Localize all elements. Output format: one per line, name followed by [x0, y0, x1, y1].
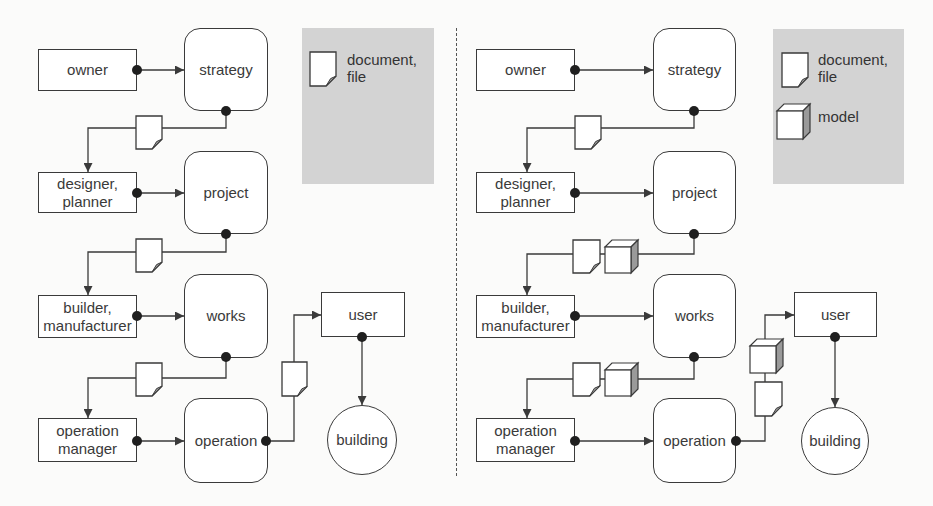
connector-dot: [132, 311, 142, 321]
connector-dot: [132, 436, 142, 446]
legend-document-icon: [310, 52, 336, 86]
connector-dot: [830, 332, 840, 342]
connector-dot: [221, 229, 231, 239]
document-icon: [573, 363, 600, 396]
model-cube-icon: [605, 240, 638, 273]
panel-divider: [456, 28, 457, 476]
connector-dot: [689, 106, 699, 116]
artifact-layer: [0, 0, 933, 506]
document-icon: [136, 116, 162, 149]
document-icon: [136, 363, 162, 396]
diagram-canvas: document, fileownerstrategydesigner, pla…: [0, 0, 933, 506]
connector-dot: [132, 65, 142, 75]
document-icon: [573, 240, 600, 273]
connector-dot: [221, 352, 231, 362]
model-cube-icon: [750, 339, 783, 373]
connector-dot: [689, 229, 699, 239]
connector-dot: [689, 352, 699, 362]
document-icon: [282, 362, 307, 396]
connector-dot: [570, 188, 580, 198]
connector-dot: [570, 311, 580, 321]
connector-dot: [570, 65, 580, 75]
document-icon: [575, 116, 601, 149]
connector-dot: [357, 332, 367, 342]
connector-dot: [132, 188, 142, 198]
connector-dot: [221, 106, 231, 116]
document-icon: [136, 239, 162, 272]
document-icon: [755, 382, 782, 416]
connector-dot: [731, 436, 741, 446]
legend-document-icon: [782, 53, 808, 87]
connector-dot: [261, 436, 271, 446]
model-cube-icon: [605, 363, 638, 396]
connector-dot: [570, 436, 580, 446]
legend-model-icon: [777, 104, 810, 139]
